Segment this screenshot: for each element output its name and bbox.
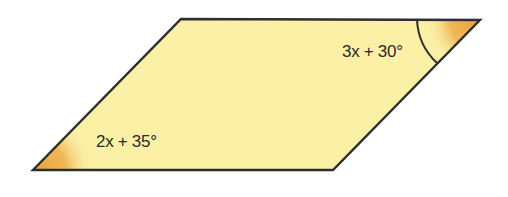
parallelogram-diagram [0,0,508,197]
angle-label-top-right: 3x + 30° [342,42,403,62]
angle-label-bottom-left: 2x + 35° [96,132,157,152]
